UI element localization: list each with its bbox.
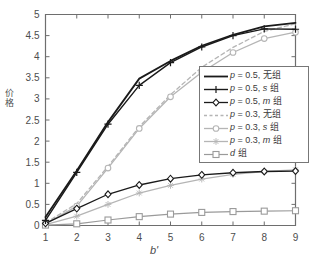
series-2	[43, 168, 299, 227]
data-point-marker	[293, 208, 299, 214]
y-tick-label: 1.5	[26, 157, 40, 168]
x-tick-label: 8	[261, 232, 267, 243]
legend-item-0[interactable]: p = 0.5, 无组	[202, 69, 308, 82]
data-point-marker	[168, 211, 174, 217]
y-tick-label: 3.5	[26, 72, 40, 83]
legend-sample-icon	[202, 82, 230, 95]
data-point-marker	[213, 99, 219, 106]
data-point-marker	[230, 209, 236, 215]
data-point-marker	[168, 94, 174, 100]
x-tick-label: 9	[293, 232, 299, 243]
data-point-marker	[105, 165, 111, 171]
y-tick-label: 2	[34, 136, 40, 147]
data-point-marker	[136, 126, 142, 132]
x-tick-label: 4	[136, 232, 142, 243]
legend-item-1[interactable]: p = 0.5, s 组	[202, 82, 308, 95]
legend-label-2: p = 0.5, m 组	[230, 95, 282, 108]
chart-legend: p = 0.5, 无组p = 0.5, s 组p = 0.5, m 组p = 0…	[199, 66, 309, 163]
legend-item-4[interactable]: p = 0.3, s 组	[202, 121, 308, 134]
legend-entries: p = 0.5, 无组p = 0.5, s 组p = 0.5, m 组p = 0…	[200, 67, 308, 160]
data-point-marker	[105, 191, 111, 198]
data-point-marker	[199, 209, 205, 215]
y-axis-label: 价 格	[1, 88, 17, 108]
legend-sample-icon	[202, 121, 230, 134]
legend-sample-icon	[202, 95, 230, 108]
x-tick-label: 1	[43, 232, 49, 243]
data-point-marker	[168, 175, 174, 182]
x-tick-label: 5	[168, 232, 174, 243]
legend-label-5: p = 0.3, m 组	[230, 134, 282, 147]
legend-sample-icon	[202, 69, 230, 82]
y-tick-label: 4	[34, 51, 40, 62]
data-point-marker	[212, 86, 219, 93]
legend-label-3: p = 0.3, 无组	[230, 108, 281, 121]
y-tick-label: 0	[34, 220, 40, 231]
data-point-marker	[136, 190, 143, 197]
data-point-marker	[167, 182, 174, 189]
legend-sample-icon	[202, 134, 230, 147]
y-tick-label: 0.5	[26, 199, 40, 210]
legend-sample-icon	[202, 147, 230, 160]
y-axis-label-char-1: 价	[1, 88, 17, 98]
data-point-marker	[74, 221, 80, 227]
x-tick-label: 6	[199, 232, 205, 243]
chart-figure: 00.511.522.533.544.55123456789 价 格 b' p …	[0, 0, 314, 264]
legend-label-4: p = 0.3, s 组	[230, 121, 279, 134]
legend-item-3[interactable]: p = 0.3, 无组	[202, 108, 308, 121]
data-point-marker	[213, 152, 219, 158]
x-tick-label: 2	[74, 232, 80, 243]
data-point-marker	[230, 50, 236, 56]
data-point-marker	[105, 201, 112, 208]
legend-sample-icon	[202, 108, 230, 121]
legend-item-5[interactable]: p = 0.3, m 组	[202, 134, 308, 147]
y-axis-label-char-2: 格	[1, 98, 17, 108]
y-tick-label: 3	[34, 93, 40, 104]
legend-item-2[interactable]: p = 0.5, m 组	[202, 95, 308, 108]
y-tick-label: 1	[34, 178, 40, 189]
legend-item-6[interactable]: d 组	[202, 147, 308, 160]
x-tick-label: 3	[105, 232, 111, 243]
x-axis-label: b'	[150, 244, 158, 256]
data-point-marker	[105, 217, 111, 223]
x-tick-label: 7	[230, 232, 236, 243]
legend-label-6: d 组	[230, 147, 247, 160]
legend-label-1: p = 0.5, s 组	[230, 82, 279, 95]
y-tick-label: 2.5	[26, 115, 40, 126]
y-tick-label: 5	[34, 9, 40, 20]
data-point-marker	[73, 213, 80, 220]
data-point-marker	[213, 138, 220, 145]
data-point-marker	[136, 182, 142, 189]
data-point-marker	[261, 36, 267, 42]
data-point-marker	[261, 208, 267, 214]
data-point-marker	[293, 168, 299, 175]
y-tick-label: 4.5	[26, 30, 40, 41]
legend-label-0: p = 0.5, 无组	[230, 69, 281, 82]
data-point-marker	[213, 126, 219, 132]
data-point-marker	[136, 214, 142, 220]
